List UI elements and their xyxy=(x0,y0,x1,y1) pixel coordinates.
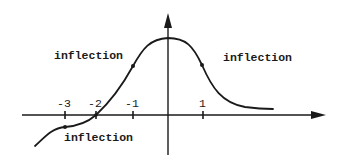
annotation-inflection-right-upper: inflection xyxy=(223,51,292,64)
y-axis-arrow-icon xyxy=(164,13,172,28)
tick-label-neg2: -2 xyxy=(88,97,102,110)
x-axis xyxy=(22,111,326,119)
inflection-point-right-upper xyxy=(200,63,204,67)
inflection-point-left-upper xyxy=(131,64,135,68)
tick-label-neg3: -3 xyxy=(57,97,71,110)
x-axis-arrow-icon xyxy=(311,111,326,119)
root-point xyxy=(94,113,98,117)
annotation-inflection-left-upper: inflection xyxy=(54,49,123,62)
function-diagram: -3 -2 -1 1 inflection inflection inflect… xyxy=(0,0,340,161)
y-axis xyxy=(164,13,172,155)
tick-label-1: 1 xyxy=(199,97,206,110)
tick-label-neg1: -1 xyxy=(125,97,139,110)
inflection-point-left-lower xyxy=(63,125,67,129)
annotation-inflection-left-lower: inflection xyxy=(64,131,133,144)
